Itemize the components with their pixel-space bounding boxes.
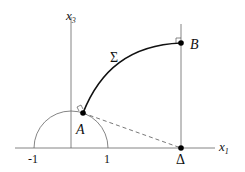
- point-delta: [178, 145, 184, 151]
- point-a: [80, 110, 86, 116]
- sigma-curve-label: Σ: [110, 50, 118, 65]
- point-b-label: B: [190, 37, 199, 52]
- tick-label-minus-one: -1: [28, 152, 38, 166]
- diagram-figure: x3 x1 -1 1 A B Δ Σ: [0, 0, 245, 172]
- x3-axis-label: x3: [65, 8, 76, 25]
- point-a-label: A: [75, 122, 85, 137]
- point-delta-label: Δ: [176, 152, 185, 167]
- x1-axis-label: x1: [218, 139, 229, 156]
- point-b: [178, 40, 184, 46]
- tick-label-one: 1: [104, 152, 110, 166]
- diagram-canvas: x3 x1 -1 1 A B Δ Σ: [0, 0, 245, 172]
- sigma-curve: [83, 43, 181, 113]
- right-angle-marker-a: [77, 105, 83, 111]
- dashed-line-a-delta: [83, 113, 181, 148]
